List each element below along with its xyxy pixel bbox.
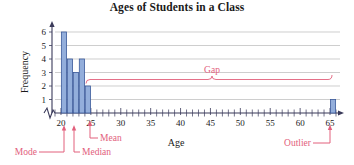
median-label: Median	[82, 147, 111, 157]
y-tick-label-2: 2	[42, 81, 47, 91]
mode-label: Mode	[15, 147, 37, 157]
bar-age-22	[73, 73, 78, 114]
x-tick-label-40: 40	[176, 118, 186, 128]
x-tick-label-55: 55	[266, 118, 276, 128]
gap-annotation: Gap	[86, 65, 332, 84]
bar-age-65	[330, 100, 335, 114]
bar-age-21	[67, 59, 72, 113]
x-tick-label-60: 60	[296, 118, 306, 128]
x-axis-label: Age	[168, 137, 185, 148]
y-axis-label: Frequency	[19, 51, 30, 93]
histogram-plot: 1 2 3 4 5 6 Frequency 202530354045505560…	[0, 0, 354, 165]
bar-age-20	[61, 32, 66, 113]
x-axis-tick-labels: 20253035404550556065	[56, 118, 335, 128]
y-tick-label-4: 4	[42, 54, 47, 64]
mean-label: Mean	[100, 133, 122, 143]
y-tick-label-1: 1	[42, 95, 47, 105]
x-tick-label-50: 50	[236, 118, 246, 128]
x-axis-ticks	[55, 108, 336, 117]
y-tick-label-5: 5	[42, 41, 47, 51]
mode-annotation: Mode	[15, 125, 66, 157]
x-tick-label-45: 45	[206, 118, 216, 128]
x-tick-label-30: 30	[116, 118, 126, 128]
x-tick-label-25: 25	[86, 118, 96, 128]
outlier-annotation: Outlier	[284, 125, 332, 149]
chart-page: Ages of Students in a Class 1 2 3 4 5	[0, 0, 354, 165]
y-tick-label-3: 3	[42, 68, 47, 78]
outlier-label: Outlier	[284, 138, 312, 148]
y-axis: 1 2 3 4 5 6 Frequency	[19, 21, 55, 113]
gap-label: Gap	[204, 65, 220, 75]
y-tick-label-6: 6	[42, 27, 47, 37]
gridlines	[55, 32, 340, 100]
bar-age-24	[85, 86, 90, 113]
bar-age-23	[79, 59, 84, 113]
x-tick-label-35: 35	[146, 118, 156, 128]
